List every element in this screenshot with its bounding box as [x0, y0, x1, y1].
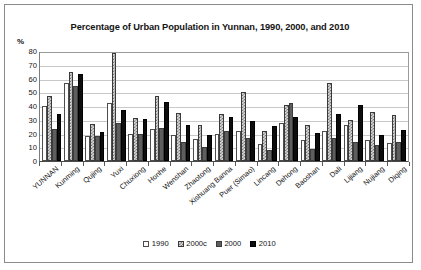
bar — [100, 132, 105, 161]
bar-group — [256, 52, 278, 161]
bar-group — [41, 52, 63, 161]
legend-item: 2000c — [178, 240, 207, 248]
bar-group — [63, 52, 85, 161]
bar — [250, 121, 255, 161]
y-tick-70: 70 — [29, 62, 37, 70]
bar-group — [235, 52, 257, 161]
bar-group — [84, 52, 106, 161]
plot-area — [39, 52, 409, 162]
bar — [401, 130, 406, 161]
bar — [186, 125, 191, 161]
bar — [207, 135, 212, 161]
white-open-square-icon — [143, 241, 149, 247]
legend-item: 2000 — [216, 240, 241, 248]
y-tick-60: 60 — [29, 76, 37, 84]
bar — [293, 117, 298, 161]
checkered-square-icon — [178, 241, 184, 247]
y-tick-40: 40 — [29, 103, 37, 111]
bar-group — [342, 52, 364, 161]
bar — [164, 102, 169, 161]
bar — [78, 74, 83, 161]
bar-group — [213, 52, 235, 161]
y-tick-10: 10 — [29, 144, 37, 152]
bar — [272, 126, 277, 161]
bar — [121, 110, 126, 161]
legend-item: 1990 — [143, 240, 168, 248]
bar-group — [321, 52, 343, 161]
bar-group — [386, 52, 408, 161]
x-axis-tick-labels: YUNNANKunmingQujingYuxiChuxiongHonheWens… — [39, 165, 409, 227]
bar-groups — [40, 52, 408, 161]
chart-legend: 19902000c20002010 — [5, 237, 414, 251]
bar — [358, 105, 363, 161]
bar-group — [192, 52, 214, 161]
bar-group — [106, 52, 128, 161]
x-tick — [409, 162, 410, 166]
bar — [379, 135, 384, 161]
y-tick-80: 80 — [29, 48, 37, 56]
y-tick-20: 20 — [29, 131, 37, 139]
bar — [229, 117, 234, 161]
bar — [57, 114, 62, 161]
dark-gray-square-icon — [216, 241, 222, 247]
legend-label: 2000c — [186, 240, 207, 248]
bar — [143, 119, 148, 161]
legend-label: 1990 — [152, 240, 169, 248]
bar-group — [127, 52, 149, 161]
legend-label: 2010 — [259, 240, 276, 248]
bar-group — [299, 52, 321, 161]
bar-group — [364, 52, 386, 161]
legend-item: 2010 — [250, 240, 275, 248]
chart-title: Percentage of Urban Population in Yunnan… — [45, 19, 375, 35]
bar-group — [170, 52, 192, 161]
bar — [336, 114, 341, 161]
legend-label: 2000 — [224, 240, 241, 248]
y-tick-0: 0 — [33, 158, 37, 166]
y-tick-50: 50 — [29, 89, 37, 97]
bar — [315, 133, 320, 161]
bar-group — [149, 52, 171, 161]
bar-group — [278, 52, 300, 161]
y-tick-30: 30 — [29, 117, 37, 125]
chart-frame: Percentage of Urban Population in Yunnan… — [4, 4, 413, 263]
y-axis-tick-labels: 01020304050607080 — [19, 45, 37, 169]
black-square-icon — [250, 241, 256, 247]
